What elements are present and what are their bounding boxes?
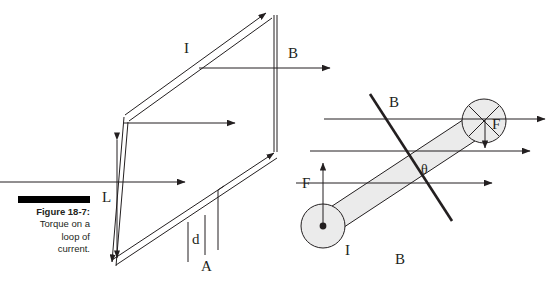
loop-bottom-wire bbox=[112, 153, 277, 265]
loop-top-wire bbox=[125, 13, 272, 121]
caption-line-2: loop of bbox=[0, 231, 90, 243]
label-angle-theta: θ bbox=[421, 163, 428, 177]
right-band bbox=[301, 99, 506, 248]
caption-title: Figure 18-7: bbox=[0, 206, 90, 218]
caption-line-3: current. bbox=[0, 243, 90, 255]
figure-18-7: Figure 18-7: Torque on a loop of current… bbox=[0, 0, 548, 293]
label-current-left: I bbox=[184, 41, 189, 56]
caption-rule bbox=[18, 196, 90, 203]
left-loop-wire-frame bbox=[112, 13, 277, 266]
label-force-bottom: F bbox=[302, 176, 310, 191]
label-field-normal: B bbox=[389, 95, 399, 110]
left-field-arrows bbox=[0, 68, 330, 182]
loop-lead-right-top bbox=[218, 186, 224, 190]
label-field-bottom: B bbox=[395, 252, 405, 267]
label-separation: d bbox=[192, 232, 200, 247]
figure-caption: Figure 18-7: Torque on a loop of current… bbox=[0, 206, 90, 256]
label-current-right: I bbox=[345, 243, 350, 258]
label-field-left: B bbox=[288, 46, 298, 61]
loop-right-wire bbox=[274, 15, 277, 152]
label-area: A bbox=[201, 259, 212, 274]
caption-line-1: Torque on a bbox=[0, 218, 90, 230]
label-force-top: F bbox=[492, 117, 500, 132]
label-length: L bbox=[102, 190, 111, 205]
loop-left-wire bbox=[112, 117, 128, 266]
